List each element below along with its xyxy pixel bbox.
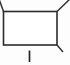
- diagram-canvas: [0, 0, 70, 65]
- top-right-diagonal: [57, 0, 70, 12]
- box-diagram-svg: [0, 0, 70, 65]
- front-face-fill: [4, 12, 56, 44]
- bottom-right-diagonal: [57, 45, 63, 52]
- top-left-diagonal: [0, 0, 4, 12]
